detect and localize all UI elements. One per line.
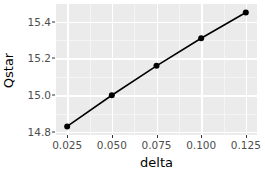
y-axis-tick-mark <box>52 58 55 59</box>
x-axis-tick-label: 0.075 <box>141 139 171 151</box>
chart-container: Qstar 14.815.015.215.4 0.0250.0500.0750.… <box>0 0 265 178</box>
data-series-layer <box>56 4 257 135</box>
data-point <box>64 123 70 129</box>
data-point <box>243 10 249 16</box>
y-axis-tick-label: 15.2 <box>28 52 51 64</box>
x-axis-tick-mark <box>67 135 68 138</box>
x-axis-title-label: delta <box>140 155 173 170</box>
x-axis-title: delta <box>56 155 257 170</box>
y-axis-tick-mark <box>52 21 55 22</box>
x-axis-tick-labels: 0.0250.0500.0750.1000.125 <box>56 139 257 155</box>
x-axis-tick-label: 0.125 <box>231 139 261 151</box>
plot-panel <box>56 4 257 135</box>
y-axis-tick-mark <box>52 131 55 132</box>
series-line <box>67 13 246 127</box>
data-point <box>109 92 115 98</box>
y-axis-title-label: Qstar <box>2 52 17 87</box>
y-axis-tick-label: 15.0 <box>28 89 51 101</box>
x-axis-tick-label: 0.100 <box>186 139 216 151</box>
y-axis-tick-mark <box>52 95 55 96</box>
x-axis-tick-mark <box>201 135 202 138</box>
y-axis-tick-label: 15.4 <box>28 16 51 28</box>
x-axis-tick-label: 0.050 <box>97 139 127 151</box>
x-axis-tick-label: 0.025 <box>52 139 82 151</box>
x-axis-tick-mark <box>157 135 158 138</box>
data-point <box>198 35 204 41</box>
x-axis-tick-mark <box>246 135 247 138</box>
y-axis-tick-label: 14.8 <box>28 126 51 138</box>
x-axis-tick-mark <box>112 135 113 138</box>
y-axis-tick-labels: 14.815.015.215.4 <box>16 0 51 140</box>
data-point <box>154 63 160 69</box>
